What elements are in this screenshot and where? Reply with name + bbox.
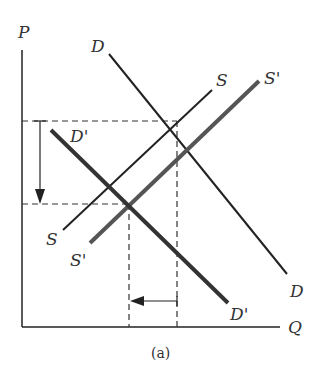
supply-label-top: S — [216, 70, 228, 90]
price-decrease-arrow-icon — [34, 121, 46, 204]
shifted-demand-label-top: D' — [69, 126, 88, 146]
demand-curve — [109, 54, 287, 274]
shifted-supply-curve — [90, 81, 259, 243]
supply-curve — [63, 90, 212, 230]
x-axis-label: Q — [288, 317, 302, 337]
demand-label-top: D — [90, 36, 105, 56]
shifted-demand-label-bottom: D' — [229, 304, 248, 324]
quantity-decrease-arrow-icon — [130, 296, 177, 306]
demand-label-bottom: D — [289, 281, 304, 301]
y-axis-label: P — [17, 22, 30, 42]
supply-label-bottom: S — [46, 229, 58, 249]
supply-demand-diagram: P Q D D S S S' S' D' D' (a) — [0, 0, 325, 382]
shifted-supply-label-bottom: S' — [70, 250, 86, 270]
figure-caption: (a) — [151, 345, 170, 361]
shifted-supply-label-top: S' — [264, 68, 280, 88]
